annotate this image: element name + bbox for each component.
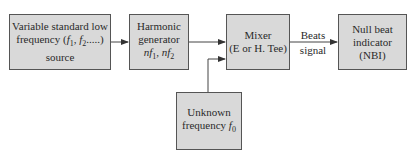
source-line1: Variable standard low [12, 20, 108, 33]
mixer-line1: Mixer [229, 29, 287, 42]
unknown-line2: frequency f0 [182, 119, 236, 136]
harmonic-line3: nf1, nf2 [137, 46, 181, 63]
source-line3: source [12, 51, 108, 64]
null-beat-indicator-block: Null beat indicator (NBI) [338, 14, 407, 70]
nbi-line2: indicator [352, 36, 393, 49]
nbi-line3: (NBI) [352, 49, 393, 62]
source-line2: frequency (f1, f2.....) [12, 33, 108, 50]
unknown-frequency-block: Unknown frequency f0 [176, 92, 242, 150]
mixer-block: Mixer (E or H. Tee) [226, 14, 290, 70]
harmonic-line1: Harmonic [137, 20, 181, 33]
harmonic-line2: generator [137, 33, 181, 46]
variable-source-block: Variable standard low frequency (f1, f2.… [9, 14, 111, 70]
mixer-line2: (E or H. Tee) [229, 42, 287, 55]
unknown-line1: Unknown [182, 106, 236, 119]
beats-signal-label: Beats signal [292, 29, 334, 57]
nbi-line1: Null beat [352, 23, 393, 36]
arrow-unknown-to-mixer [208, 59, 225, 92]
harmonic-generator-block: Harmonic generator nf1, nf2 [129, 14, 189, 70]
